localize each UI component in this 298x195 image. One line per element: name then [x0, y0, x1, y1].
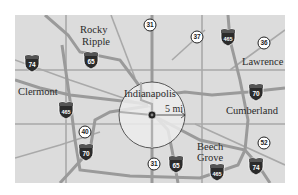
svg-text:74: 74 — [252, 164, 260, 171]
city-map: 5 mi Rocky Ripple Lawrence Clermont Indi… — [0, 0, 298, 195]
label-beech: Beech — [197, 141, 224, 152]
label-clermont: Clermont — [18, 86, 58, 97]
label-cumberland: Cumberland — [226, 105, 279, 116]
svg-text:70: 70 — [82, 150, 90, 157]
label-ripple: Ripple — [82, 36, 110, 47]
svg-text:52: 52 — [260, 139, 268, 146]
label-rocky: Rocky — [80, 24, 108, 35]
label-indianapolis: Indianapolis — [124, 88, 176, 99]
route-36-marker-icon: 36 — [258, 37, 270, 49]
route-31-north-marker-icon: 31 — [144, 19, 156, 31]
svg-text:65: 65 — [172, 162, 180, 169]
route-52-marker-icon: 52 — [258, 137, 270, 149]
svg-text:36: 36 — [260, 39, 268, 46]
svg-text:65: 65 — [87, 58, 95, 65]
svg-text:74: 74 — [28, 61, 36, 68]
svg-text:465: 465 — [212, 171, 221, 177]
svg-text:31: 31 — [150, 160, 158, 167]
svg-text:70: 70 — [252, 90, 260, 97]
scale-label: 5 mi — [165, 103, 183, 114]
route-40-marker-icon: 40 — [79, 126, 91, 138]
label-lawrence: Lawrence — [242, 56, 284, 67]
svg-text:40: 40 — [81, 128, 89, 135]
route-31-south-marker-icon: 31 — [148, 158, 160, 170]
svg-text:37: 37 — [193, 33, 201, 40]
label-grove: Grove — [197, 152, 224, 163]
svg-text:465: 465 — [61, 109, 70, 115]
route-37-marker-icon: 37 — [191, 31, 203, 43]
svg-text:31: 31 — [146, 21, 154, 28]
svg-text:465: 465 — [223, 36, 232, 42]
